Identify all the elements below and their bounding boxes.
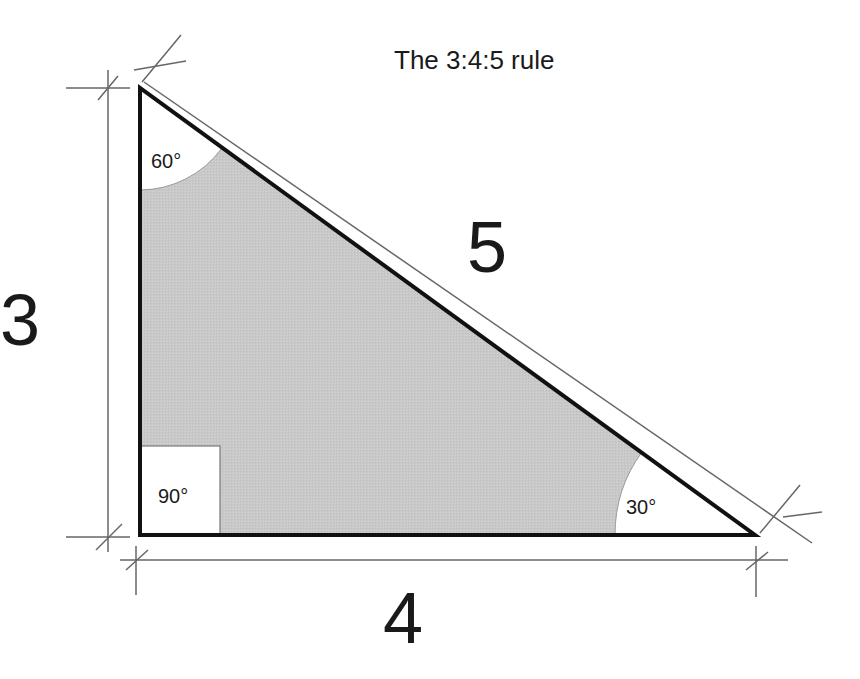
diagram-title: The 3:4:5 rule bbox=[394, 45, 554, 75]
triangle-diagram: 60° 90° 30° 3 5 4 The 3:4:5 rule bbox=[0, 0, 860, 679]
side-label-vertical: 3 bbox=[0, 280, 40, 360]
dimension-line-horizontal bbox=[120, 546, 788, 597]
side-label-horizontal: 4 bbox=[383, 578, 423, 658]
angle-label-right: 90° bbox=[158, 485, 188, 507]
side-label-hypotenuse: 5 bbox=[467, 207, 507, 287]
angle-arc-30 bbox=[615, 452, 755, 535]
dimension-line-vertical bbox=[66, 70, 130, 552]
angle-label-bottom-right: 30° bbox=[626, 496, 656, 518]
angle-label-top: 60° bbox=[151, 150, 181, 172]
